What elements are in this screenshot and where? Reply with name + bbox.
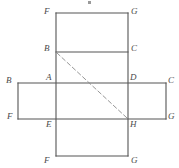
cube-net-figure: FGBCADBCFGEHFG bbox=[0, 0, 179, 168]
label-G-bottom-right: G bbox=[131, 156, 138, 165]
label-F-top-left: F bbox=[44, 7, 50, 16]
label-E-center-left: E bbox=[46, 120, 52, 129]
label-F-bottom-left: F bbox=[44, 156, 50, 165]
label-B-mid-left: B bbox=[44, 44, 50, 53]
label-G-far-right: G bbox=[168, 112, 175, 121]
label-D-center-right: D bbox=[130, 73, 137, 82]
label-F-far-left: F bbox=[7, 112, 13, 121]
solid-edge-group bbox=[18, 13, 166, 156]
label-A-center-left: A bbox=[46, 73, 52, 82]
label-C-mid-right: C bbox=[131, 44, 137, 53]
label-C-far-right: C bbox=[168, 76, 174, 85]
label-B-far-left: B bbox=[6, 76, 12, 85]
diagonal-B-to-H bbox=[57, 53, 127, 118]
net-drawing-surface bbox=[0, 0, 179, 168]
label-H-center-right: H bbox=[130, 120, 137, 129]
dashed-edge-group bbox=[57, 53, 127, 118]
scan-speck-top bbox=[88, 1, 91, 4]
label-G-top-right: G bbox=[131, 7, 138, 16]
scan-artifact-group bbox=[88, 1, 91, 4]
